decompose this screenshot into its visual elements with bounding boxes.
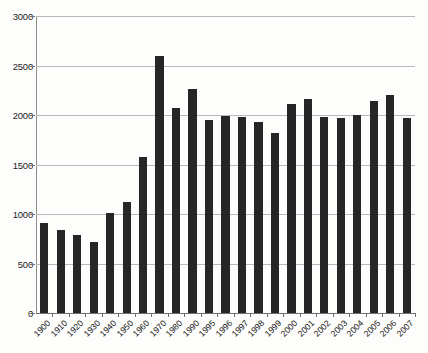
y-axis-tick-label: 500 bbox=[1, 258, 33, 269]
bar bbox=[238, 117, 246, 313]
x-axis-tick-label: 1995 bbox=[197, 318, 218, 339]
x-axis-tick-mark bbox=[333, 313, 334, 317]
x-axis-tick-mark bbox=[415, 313, 416, 317]
bar bbox=[254, 122, 262, 313]
x-axis-tick-mark bbox=[118, 313, 119, 317]
x-axis-tick-label: 1930 bbox=[81, 318, 102, 339]
y-axis-tick-mark bbox=[30, 66, 35, 67]
x-axis-tick-label: 1998 bbox=[246, 318, 267, 339]
bar bbox=[106, 213, 114, 313]
bar bbox=[403, 118, 411, 313]
bar bbox=[337, 118, 345, 313]
bar bbox=[188, 89, 196, 313]
x-axis-tick-label: 1920 bbox=[65, 318, 86, 339]
x-axis-tick-mark bbox=[300, 313, 301, 317]
x-axis-tick-label: 2000 bbox=[279, 318, 300, 339]
y-axis-tick-label: 2000 bbox=[1, 110, 33, 121]
x-axis-tick-mark bbox=[283, 313, 284, 317]
x-axis-tick-label: 2004 bbox=[345, 318, 366, 339]
x-axis-tick-mark bbox=[151, 313, 152, 317]
x-axis-tick-mark bbox=[366, 313, 367, 317]
x-axis-tick-mark bbox=[267, 313, 268, 317]
bar bbox=[139, 157, 147, 313]
y-axis-tick-mark bbox=[30, 165, 35, 166]
bar bbox=[221, 116, 229, 313]
x-axis-tick-label: 1900 bbox=[32, 318, 53, 339]
x-axis-tick-label: 2002 bbox=[312, 318, 333, 339]
bar bbox=[271, 133, 279, 313]
x-axis-tick-label: 2007 bbox=[394, 318, 415, 339]
x-axis-tick-label: 1910 bbox=[48, 318, 69, 339]
bar bbox=[73, 235, 81, 313]
bar bbox=[304, 99, 312, 313]
x-axis-tick-label: 1960 bbox=[131, 318, 152, 339]
bar bbox=[205, 120, 213, 313]
y-axis-tick-mark bbox=[30, 264, 35, 265]
x-axis-labels: 1900191019201930194019501960197019801990… bbox=[36, 318, 415, 353]
x-axis-tick-mark bbox=[217, 313, 218, 317]
x-axis-tick-mark bbox=[316, 313, 317, 317]
x-axis-tick-label: 1950 bbox=[114, 318, 135, 339]
x-axis-tick-mark bbox=[399, 313, 400, 317]
x-axis-tick-mark bbox=[102, 313, 103, 317]
y-axis-tick-label: 2500 bbox=[1, 60, 33, 71]
bar bbox=[370, 101, 378, 313]
x-axis-ticks bbox=[36, 313, 415, 317]
y-axis-tick-label: 1000 bbox=[1, 209, 33, 220]
x-axis-tick-mark bbox=[349, 313, 350, 317]
y-axis-tick-mark bbox=[30, 214, 35, 215]
x-axis-tick-mark bbox=[52, 313, 53, 317]
bar bbox=[353, 115, 361, 313]
y-axis-tick-mark bbox=[30, 115, 35, 116]
bar bbox=[386, 95, 394, 313]
x-axis-tick-mark bbox=[234, 313, 235, 317]
bar bbox=[123, 202, 131, 313]
x-axis-tick-label: 1980 bbox=[164, 318, 185, 339]
x-axis-tick-mark bbox=[201, 313, 202, 317]
y-axis-tick-mark bbox=[30, 16, 35, 17]
x-axis-tick-label: 1996 bbox=[213, 318, 234, 339]
x-axis-tick-label: 2006 bbox=[378, 318, 399, 339]
bar bbox=[90, 242, 98, 313]
bar bbox=[172, 108, 180, 313]
y-axis-labels: 050010001500200025003000 bbox=[0, 0, 33, 353]
y-axis-tick-mark bbox=[30, 313, 35, 314]
bar bbox=[57, 230, 65, 313]
bar bbox=[155, 56, 163, 313]
x-axis-tick-label: 1940 bbox=[98, 318, 119, 339]
x-axis-tick-mark bbox=[135, 313, 136, 317]
x-axis-tick-mark bbox=[250, 313, 251, 317]
x-axis-tick-label: 1970 bbox=[147, 318, 168, 339]
x-axis-tick-mark bbox=[168, 313, 169, 317]
y-axis-tick-label: 1500 bbox=[1, 159, 33, 170]
y-axis-tick-label: 3000 bbox=[1, 11, 33, 22]
bars-layer bbox=[36, 16, 415, 313]
x-axis-tick-mark bbox=[69, 313, 70, 317]
bar bbox=[40, 223, 48, 313]
y-axis-tick-label: 0 bbox=[1, 308, 33, 319]
x-axis-tick-label: 1990 bbox=[180, 318, 201, 339]
x-axis-tick-mark bbox=[85, 313, 86, 317]
bar bbox=[287, 104, 295, 313]
x-axis-tick-mark bbox=[382, 313, 383, 317]
bar-chart: 050010001500200025003000 190019101920193… bbox=[0, 0, 428, 353]
bar bbox=[320, 117, 328, 313]
x-axis-tick-mark bbox=[184, 313, 185, 317]
